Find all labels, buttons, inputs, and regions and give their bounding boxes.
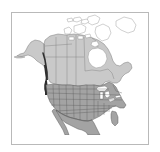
small-island-c xyxy=(69,37,74,40)
map-frame xyxy=(11,12,149,145)
map-viewport xyxy=(12,13,148,135)
north-america-map xyxy=(12,13,148,135)
lake-michigan xyxy=(100,92,103,99)
small-island-b xyxy=(78,36,83,39)
figure-root xyxy=(0,0,160,152)
map-caption-area xyxy=(12,134,148,144)
